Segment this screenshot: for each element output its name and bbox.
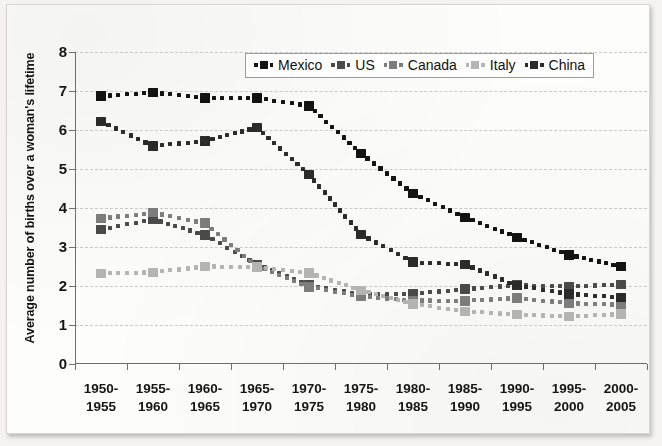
legend-marker [254, 63, 258, 67]
data-point [512, 281, 522, 291]
series-dot [381, 244, 385, 248]
data-point [408, 257, 418, 267]
series-dot [500, 277, 504, 281]
legend-marker [389, 61, 397, 69]
series-dot [168, 142, 172, 146]
legend-item-china[interactable]: China [525, 57, 586, 73]
legend-marker [481, 63, 485, 67]
series-dot [610, 295, 614, 299]
series-dot [602, 294, 606, 298]
series-dot [437, 261, 441, 265]
data-point [200, 136, 210, 146]
series-dot [454, 262, 458, 266]
legend-marker [331, 63, 335, 67]
series-dot [584, 293, 588, 297]
legend-marker [337, 61, 345, 69]
series-dot [247, 127, 251, 131]
x-tick [335, 364, 336, 370]
series-dot [295, 162, 299, 166]
chart-figure: Average number of births over a woman's … [0, 0, 662, 446]
data-point [460, 260, 470, 270]
series-dot [114, 126, 118, 130]
series-dot [374, 240, 378, 244]
legend-label: Canada [408, 57, 457, 73]
x-tick-label: 2000-2005 [589, 380, 653, 416]
plot-area: 012345678 1950-19551955-19601960-1965196… [75, 52, 647, 364]
series-dot [272, 141, 276, 145]
series-dot [343, 214, 347, 218]
y-tick-label: 3 [41, 239, 67, 254]
series-dot [366, 236, 370, 240]
legend-marker [471, 61, 479, 69]
series-dot [338, 208, 342, 212]
x-tick [647, 364, 648, 370]
series-dot [493, 274, 497, 278]
x-tick [543, 364, 544, 370]
data-point [148, 141, 158, 151]
series-dot [218, 135, 222, 139]
legend-marker [260, 61, 268, 69]
series-dot [121, 130, 125, 134]
x-tick [127, 364, 128, 370]
x-tick [179, 364, 180, 370]
series-dot [403, 256, 407, 260]
legend-marker [540, 63, 544, 67]
series-dot [106, 123, 110, 127]
series-dot [210, 137, 214, 141]
series-dot [446, 262, 450, 266]
y-tick-label: 4 [41, 200, 67, 215]
series-dot [349, 220, 353, 224]
y-tick-label: 6 [41, 122, 67, 137]
chart-legend: MexicoUSCanadaItalyChina [245, 53, 594, 78]
series-dot [266, 136, 270, 140]
data-point [304, 170, 314, 180]
series-dot [485, 271, 489, 275]
series-dot [507, 281, 511, 285]
legend-marker [466, 63, 470, 67]
series-dot [160, 143, 164, 147]
legend-marker [347, 63, 351, 67]
series-dot [278, 146, 282, 150]
data-point [564, 289, 574, 299]
legend-marker [399, 63, 403, 67]
legend-label: Mexico [278, 57, 322, 73]
series-dot [550, 289, 554, 293]
data-point [96, 117, 106, 127]
legend-item-italy[interactable]: Italy [466, 57, 516, 73]
series-dot [576, 292, 580, 296]
y-tick-label: 2 [41, 278, 67, 293]
x-tick [439, 364, 440, 370]
series-dot [558, 290, 562, 294]
series-dot [233, 131, 237, 135]
series-dot [328, 196, 332, 200]
series-dot [428, 261, 432, 265]
series-dot [541, 288, 545, 292]
y-tick-label: 8 [41, 44, 67, 59]
legend-marker [384, 63, 388, 67]
series-dot [524, 285, 528, 289]
y-tick-label: 1 [41, 317, 67, 332]
series-dot [194, 140, 198, 144]
data-point [616, 293, 626, 303]
legend-item-canada[interactable]: Canada [384, 57, 457, 73]
y-tick-label: 5 [41, 161, 67, 176]
series-dot [177, 141, 181, 145]
series-dot [389, 248, 393, 252]
legend-item-mexico[interactable]: Mexico [254, 57, 322, 73]
series-dot [478, 268, 482, 272]
y-axis-title: Average number of births over a woman's … [23, 33, 37, 363]
x-tick [387, 364, 388, 370]
legend-label: US [355, 57, 374, 73]
series-dot [136, 137, 140, 141]
x-tick [231, 364, 232, 370]
series-dot [593, 294, 597, 298]
legend-marker [270, 63, 274, 67]
series-china [75, 52, 647, 364]
legend-item-us[interactable]: US [331, 57, 374, 73]
x-tick [595, 364, 596, 370]
x-tick [75, 364, 76, 370]
legend-marker [525, 63, 529, 67]
legend-marker [530, 61, 538, 69]
data-point [252, 123, 262, 133]
y-tick-label: 7 [41, 83, 67, 98]
